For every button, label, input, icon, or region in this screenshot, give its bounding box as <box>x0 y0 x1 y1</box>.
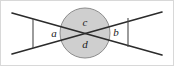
figure-canvas: c d a b <box>0 0 174 66</box>
angle-label-b: b <box>113 26 119 38</box>
vertical-angles-svg: c d a b <box>0 0 174 66</box>
angle-label-c: c <box>83 16 88 28</box>
angle-label-d: d <box>82 38 88 50</box>
angle-label-a: a <box>51 27 57 39</box>
